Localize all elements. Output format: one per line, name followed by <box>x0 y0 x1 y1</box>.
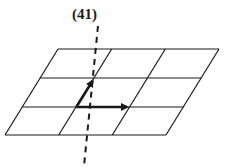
basis-vectors <box>76 81 127 107</box>
lattice-diagram <box>0 0 226 168</box>
dashed-axis <box>84 26 98 166</box>
grid <box>5 49 219 135</box>
